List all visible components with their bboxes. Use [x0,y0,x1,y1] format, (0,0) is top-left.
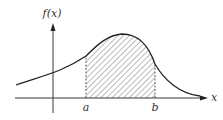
x-axis-arrow-icon [200,96,208,101]
y-axis-arrow-icon [51,23,56,31]
shaded-area [86,34,155,98]
y-axis-label: f(x) [42,7,62,20]
upper-bound-label: b [151,101,158,114]
lower-bound-label: a [83,101,90,114]
x-axis-label: x [211,91,218,104]
integral-diagram: f(x) x a b [0,0,223,120]
